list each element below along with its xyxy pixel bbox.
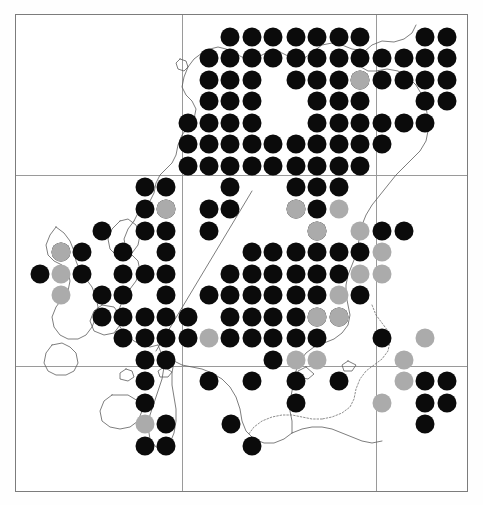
record-dot — [221, 265, 240, 284]
record-dot — [243, 286, 262, 305]
record-dot — [351, 28, 370, 47]
record-dot — [200, 135, 219, 154]
record-dot — [179, 135, 198, 154]
record-dot — [330, 265, 349, 284]
record-dot — [52, 243, 71, 262]
record-dot — [264, 351, 283, 370]
record-dot — [114, 265, 133, 284]
record-dot — [351, 157, 370, 176]
record-dot — [395, 351, 414, 370]
record-dot — [416, 71, 435, 90]
record-dot — [157, 265, 176, 284]
record-dot — [243, 243, 262, 262]
record-dot — [351, 222, 370, 241]
record-dot — [351, 92, 370, 111]
record-dot — [438, 49, 457, 68]
record-dot — [243, 114, 262, 133]
record-dot — [243, 329, 262, 348]
record-dot — [200, 286, 219, 305]
record-dot — [330, 372, 349, 391]
record-dot — [136, 265, 155, 284]
record-dot — [287, 135, 306, 154]
record-dot — [330, 71, 349, 90]
record-dot — [287, 28, 306, 47]
record-dot — [52, 286, 71, 305]
record-dot — [395, 71, 414, 90]
map-plate — [15, 14, 468, 492]
record-dot — [243, 135, 262, 154]
record-dot — [264, 329, 283, 348]
record-dot — [264, 28, 283, 47]
record-dot — [308, 329, 327, 348]
record-dot — [373, 394, 392, 413]
distribution-map — [0, 0, 483, 505]
record-dot — [308, 178, 327, 197]
record-dot — [351, 71, 370, 90]
record-dot — [373, 265, 392, 284]
record-dot — [395, 49, 414, 68]
record-dot — [438, 372, 457, 391]
record-dot — [93, 286, 112, 305]
record-dot — [136, 372, 155, 391]
record-dot — [308, 243, 327, 262]
record-dot — [157, 200, 176, 219]
record-dot — [243, 92, 262, 111]
record-dot — [136, 351, 155, 370]
record-dot — [287, 351, 306, 370]
record-dot — [243, 265, 262, 284]
record-dot — [351, 286, 370, 305]
record-dot — [373, 49, 392, 68]
record-dot — [308, 286, 327, 305]
record-dot — [308, 114, 327, 133]
record-dot — [136, 415, 155, 434]
record-dot — [438, 394, 457, 413]
record-dot — [221, 157, 240, 176]
record-dot — [73, 265, 92, 284]
record-dot — [114, 308, 133, 327]
record-dot — [287, 265, 306, 284]
record-dot — [221, 28, 240, 47]
record-dot — [373, 135, 392, 154]
record-dot — [287, 71, 306, 90]
record-dot — [136, 394, 155, 413]
record-dot — [351, 114, 370, 133]
record-dot — [264, 265, 283, 284]
record-dot — [157, 437, 176, 456]
record-dot — [200, 49, 219, 68]
record-dot — [136, 437, 155, 456]
record-dot — [287, 178, 306, 197]
record-dot — [395, 222, 414, 241]
record-dot — [416, 415, 435, 434]
record-dot — [136, 222, 155, 241]
record-dot — [330, 114, 349, 133]
record-dot — [114, 286, 133, 305]
record-dot — [308, 157, 327, 176]
record-dot — [287, 157, 306, 176]
record-dot — [308, 71, 327, 90]
record-dot — [157, 286, 176, 305]
record-dot — [351, 135, 370, 154]
record-dot — [200, 92, 219, 111]
record-dot — [200, 222, 219, 241]
record-dot — [200, 200, 219, 219]
record-dot — [179, 308, 198, 327]
record-dot — [308, 308, 327, 327]
record-dot — [416, 394, 435, 413]
record-dot — [416, 92, 435, 111]
record-dot — [373, 329, 392, 348]
record-dot — [287, 308, 306, 327]
record-dot-layer — [16, 15, 469, 493]
record-dot — [373, 243, 392, 262]
record-dot — [243, 28, 262, 47]
record-dot — [287, 243, 306, 262]
record-dot — [136, 308, 155, 327]
record-dot — [157, 308, 176, 327]
record-dot — [200, 329, 219, 348]
record-dot — [221, 135, 240, 154]
record-dot — [330, 178, 349, 197]
record-dot — [221, 286, 240, 305]
record-dot — [308, 200, 327, 219]
record-dot — [373, 222, 392, 241]
record-dot — [157, 222, 176, 241]
record-dot — [264, 243, 283, 262]
